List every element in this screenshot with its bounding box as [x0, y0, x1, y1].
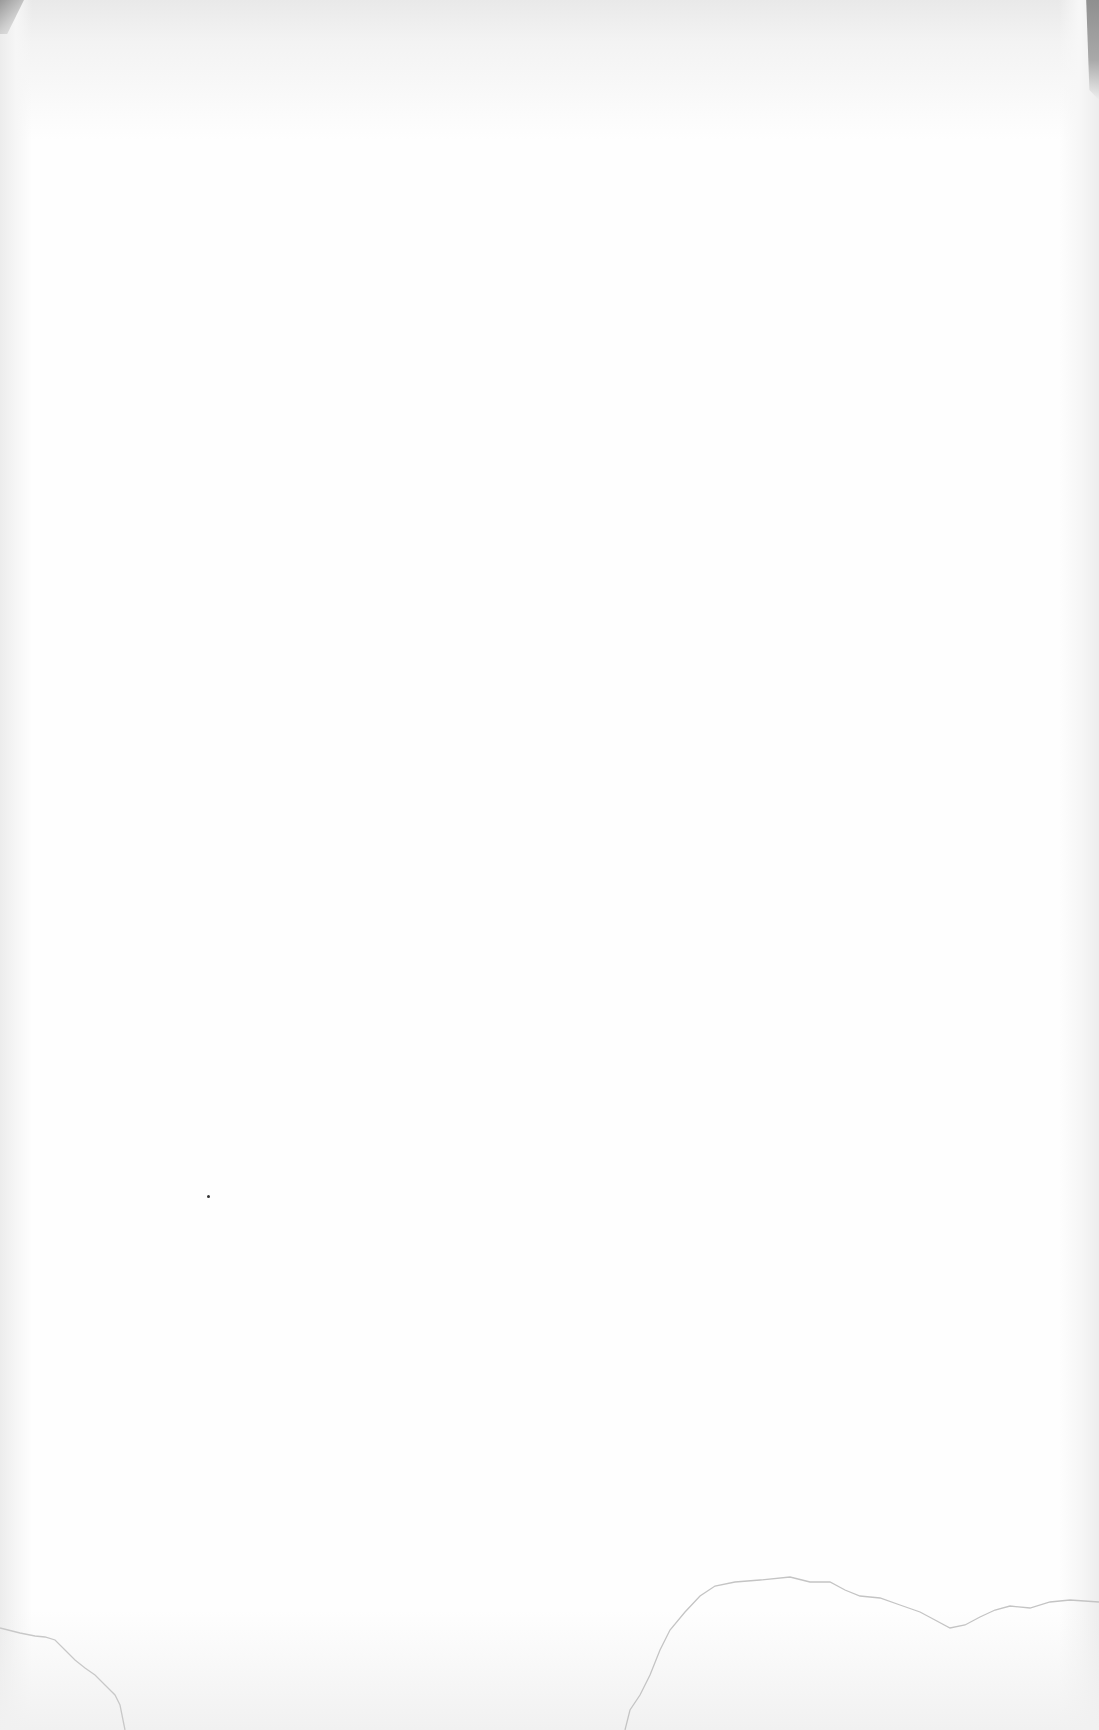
crease-line-left: [0, 1628, 125, 1730]
crease-line-right: [625, 1577, 1099, 1730]
paper-crease-lines: [0, 0, 1099, 1730]
scanned-blank-page: [0, 0, 1099, 1730]
